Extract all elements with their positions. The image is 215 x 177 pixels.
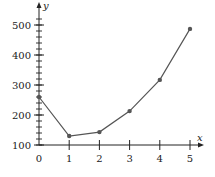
data-point	[67, 134, 71, 138]
data-point	[158, 78, 162, 82]
x-axis-label: x	[197, 132, 203, 143]
data-line	[39, 29, 190, 136]
x-tick-label: 3	[126, 153, 132, 164]
line-chart: 100200300400500 012345 y x	[0, 0, 215, 177]
y-tick-label: 200	[12, 110, 31, 121]
x-tick-label: 0	[36, 153, 42, 164]
y-tick-label: 100	[12, 140, 31, 151]
x-ticks: 012345	[36, 140, 193, 164]
x-axis-arrow-icon	[198, 143, 204, 148]
y-tick-label: 400	[12, 50, 31, 61]
data-point	[188, 27, 192, 31]
y-axis-arrow-icon	[37, 2, 42, 8]
x-tick-label: 4	[157, 153, 163, 164]
x-tick-label: 2	[96, 153, 102, 164]
x-tick-label: 5	[187, 153, 193, 164]
data-point	[127, 109, 131, 113]
data-point	[37, 95, 41, 99]
y-axis-label: y	[42, 0, 49, 11]
data-point	[97, 130, 101, 134]
y-tick-label: 500	[12, 20, 31, 31]
y-tick-label: 300	[12, 80, 31, 91]
x-tick-label: 1	[66, 153, 72, 164]
